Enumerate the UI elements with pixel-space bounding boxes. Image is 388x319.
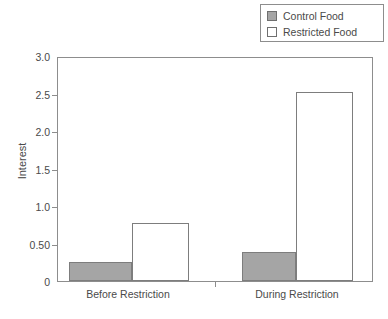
y-axis-tick-label: 2.0: [8, 127, 50, 137]
chart-legend: Control Food Restricted Food: [260, 4, 384, 42]
bar-restricted-food: [296, 92, 353, 281]
y-axis-tick-label: 3.0: [8, 52, 50, 62]
plot-area: [57, 57, 373, 282]
legend-item-restricted-food: Restricted Food: [267, 24, 383, 39]
bar-control-food: [242, 252, 296, 281]
control-food-swatch-icon: [267, 11, 277, 21]
legend-label-control-food: Control Food: [283, 10, 344, 22]
legend-label-restricted-food: Restricted Food: [283, 26, 357, 38]
y-axis-tick-label: 0.50: [8, 240, 50, 250]
bar-control-food: [69, 262, 132, 282]
bar-restricted-food: [132, 223, 189, 282]
y-axis-tick-label: 1.5: [8, 165, 50, 175]
x-axis-category-label: During Restriction: [237, 288, 357, 301]
restricted-food-swatch-icon: [267, 27, 277, 37]
y-axis-tick-label: 2.5: [8, 90, 50, 100]
y-axis-tick-label: 1.0: [8, 202, 50, 212]
x-axis-group-separator-tick: [215, 282, 216, 287]
y-axis-tick-label: 0: [8, 277, 50, 287]
x-axis-category-label: Before Restriction: [68, 288, 188, 301]
legend-item-control-food: Control Food: [267, 8, 383, 23]
